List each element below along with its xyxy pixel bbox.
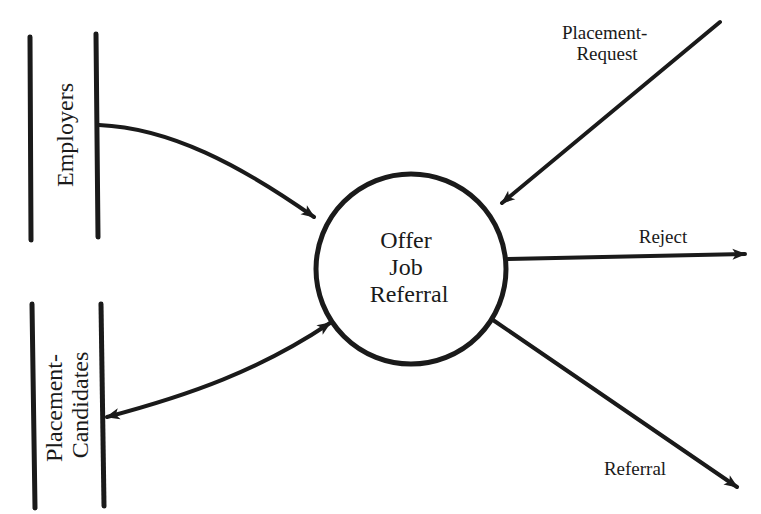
store-left-line [32, 304, 35, 508]
data-flow-diagram: Employers Placement- Candidates Offer Jo… [0, 0, 761, 514]
flow-arrow-reject [508, 254, 745, 259]
store-right-line [101, 304, 104, 506]
store-left-line [30, 37, 31, 240]
flow-arrow-placement-candidates [107, 323, 330, 417]
flow-arrow-employers [99, 125, 314, 217]
data-store-employers: Employers [30, 34, 98, 240]
flow-placement-request: Placement- Request [502, 22, 720, 203]
data-store-label-placement-candidates: Placement- Candidates [41, 348, 93, 462]
flow-label-referral: Referral [604, 458, 666, 479]
flow-reject: Reject [508, 226, 745, 259]
process-offer-job-referral: Offer Job Referral [316, 174, 506, 364]
data-store-placement-candidates: Placement- Candidates [32, 304, 104, 508]
flow-label-reject: Reject [639, 226, 688, 247]
flow-referral: Referral [493, 320, 737, 487]
store-right-line [96, 34, 98, 237]
flow-label-placement-request: Placement- Request [562, 22, 652, 64]
data-store-label-employers: Employers [52, 83, 78, 187]
